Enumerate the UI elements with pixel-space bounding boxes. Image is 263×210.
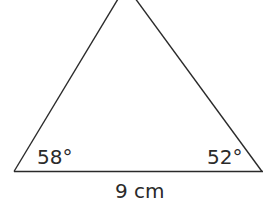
angle-label-bottom-right: 52° [207, 145, 242, 169]
triangle-diagram: 58° 52° 9 cm [0, 0, 263, 210]
angle-label-bottom-left: 58° [37, 145, 72, 169]
right-side [132, 0, 262, 172]
base-length-label: 9 cm [115, 179, 165, 203]
